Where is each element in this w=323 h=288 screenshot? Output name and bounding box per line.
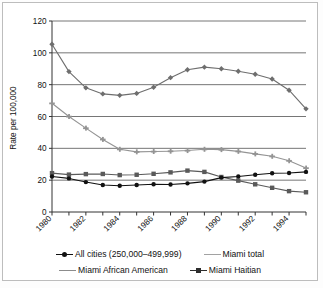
legend-marker-cross-icon [59, 265, 76, 275]
svg-text:1984: 1984 [102, 214, 122, 234]
svg-text:80: 80 [37, 81, 47, 90]
svg-text:1980: 1980 [34, 214, 54, 234]
gridlines [52, 21, 306, 180]
y-axis-label: Rate per 100,000 [9, 86, 18, 150]
chart-page: 020406080100120 198019821984198619881990… [0, 0, 323, 288]
legend-item-miami-african-american[interactable]: Miami African American [59, 265, 168, 275]
legend-label-miami-haitian: Miami Haitian [209, 266, 261, 275]
legend-marker-circle-icon [56, 249, 73, 259]
svg-text:1982: 1982 [68, 214, 88, 234]
legend-label-miami-total: Miami total [223, 250, 265, 259]
legend-marker-cross-icon [204, 249, 221, 259]
svg-text:120: 120 [33, 17, 47, 26]
x-axis-tick-labels: 19801982198419861988199019921994 [34, 214, 291, 234]
legend-label-miami-african-american: Miami African American [78, 266, 168, 275]
svg-text:40: 40 [37, 144, 47, 153]
legend-item-miami-haitian[interactable]: Miami Haitian [190, 265, 261, 275]
legend-item-all-cities[interactable]: All cities (250,000–499,999) [56, 249, 182, 259]
y-axis-tick-labels: 020406080100120 [33, 17, 52, 217]
legend-item-miami-total[interactable]: Miami total [204, 249, 265, 259]
legend-row-2: Miami African American Miami Haitian [6, 262, 314, 278]
legend-label-all-cities: All cities (250,000–499,999) [75, 250, 182, 259]
svg-text:1988: 1988 [170, 214, 190, 234]
svg-text:1994: 1994 [271, 214, 291, 234]
svg-text:1986: 1986 [136, 214, 156, 234]
chart-legend: All cities (250,000–499,999) Miami total… [6, 246, 314, 280]
legend-row-1: All cities (250,000–499,999) Miami total [6, 246, 314, 262]
legend-marker-square-icon [190, 265, 207, 275]
svg-text:60: 60 [37, 113, 47, 122]
data-series-layer [49, 42, 309, 195]
x-axis-ticks [52, 212, 306, 216]
svg-text:1990: 1990 [204, 214, 224, 234]
svg-text:20: 20 [37, 176, 47, 185]
line-chart: 020406080100120 198019821984198619881990… [0, 0, 323, 288]
svg-text:100: 100 [33, 49, 47, 58]
svg-text:1992: 1992 [237, 214, 257, 234]
